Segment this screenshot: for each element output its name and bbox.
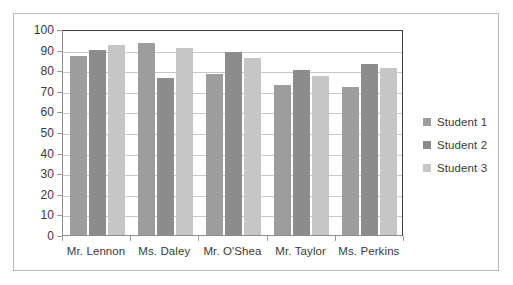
- legend-item[interactable]: Student 2: [423, 133, 495, 156]
- bar[interactable]: [157, 78, 174, 235]
- bar-group: [70, 31, 125, 235]
- plot-area: [62, 30, 403, 236]
- chart-legend: Student 1Student 2Student 3: [423, 110, 495, 179]
- bar-group: [138, 31, 193, 235]
- x-axis-tick-mark: [267, 236, 268, 241]
- y-axis-tick-label: 70: [40, 85, 54, 99]
- x-axis-label: Mr. Lennon: [67, 245, 126, 257]
- bar[interactable]: [244, 58, 261, 235]
- y-axis-tick-label: 50: [40, 126, 54, 140]
- bar[interactable]: [293, 70, 310, 235]
- bar[interactable]: [206, 74, 223, 235]
- y-axis-tick-label: 80: [40, 64, 54, 78]
- x-axis-tick-mark: [62, 236, 63, 241]
- bar[interactable]: [312, 76, 329, 235]
- x-axis-tick-mark: [130, 236, 131, 241]
- y-axis-tick-label: 90: [40, 44, 54, 58]
- bar[interactable]: [225, 52, 242, 235]
- chart-plot-wrapper: 1009080706050403020100 Mr. LennonMs. Dal…: [14, 14, 498, 270]
- y-axis-tick-label: 0: [47, 229, 54, 243]
- legend-color-swatch: [423, 141, 431, 149]
- legend-item-label: Student 3: [437, 162, 487, 174]
- bar-group: [274, 31, 329, 235]
- x-axis-label: Mr. O'Shea: [203, 245, 261, 257]
- bar[interactable]: [108, 45, 125, 235]
- bar[interactable]: [138, 43, 155, 235]
- x-axis-tick-mark: [198, 236, 199, 241]
- bar[interactable]: [70, 56, 87, 235]
- x-axis-tick-mark: [403, 236, 404, 241]
- y-axis-tick-label: 60: [40, 105, 54, 119]
- bar[interactable]: [89, 50, 106, 235]
- legend-color-swatch: [423, 164, 431, 172]
- legend-color-swatch: [423, 118, 431, 126]
- bar[interactable]: [361, 64, 378, 235]
- legend-item-label: Student 1: [437, 116, 487, 128]
- y-axis-tick-label: 30: [40, 167, 54, 181]
- y-axis-tick-label: 100: [34, 23, 54, 37]
- y-axis-tick-label: 20: [40, 188, 54, 202]
- bar-group: [342, 31, 397, 235]
- bar[interactable]: [176, 48, 193, 235]
- legend-item[interactable]: Student 3: [423, 156, 495, 179]
- bar[interactable]: [342, 87, 359, 235]
- x-axis-label: Ms. Daley: [138, 245, 190, 257]
- y-axis-tick-label: 10: [40, 208, 54, 222]
- x-axis-label: Mr. Taylor: [275, 245, 326, 257]
- bar[interactable]: [380, 68, 397, 235]
- x-axis-tick-mark: [335, 236, 336, 241]
- bar[interactable]: [274, 85, 291, 235]
- legend-item-label: Student 2: [437, 139, 487, 151]
- y-axis: 1009080706050403020100: [22, 24, 54, 236]
- legend-item[interactable]: Student 1: [423, 110, 495, 133]
- bar-group: [206, 31, 261, 235]
- chart-frame: 1009080706050403020100 Mr. LennonMs. Dal…: [13, 13, 499, 271]
- x-axis-label: Ms. Perkins: [338, 245, 399, 257]
- bars-layer: [63, 31, 402, 235]
- y-axis-tick-label: 40: [40, 147, 54, 161]
